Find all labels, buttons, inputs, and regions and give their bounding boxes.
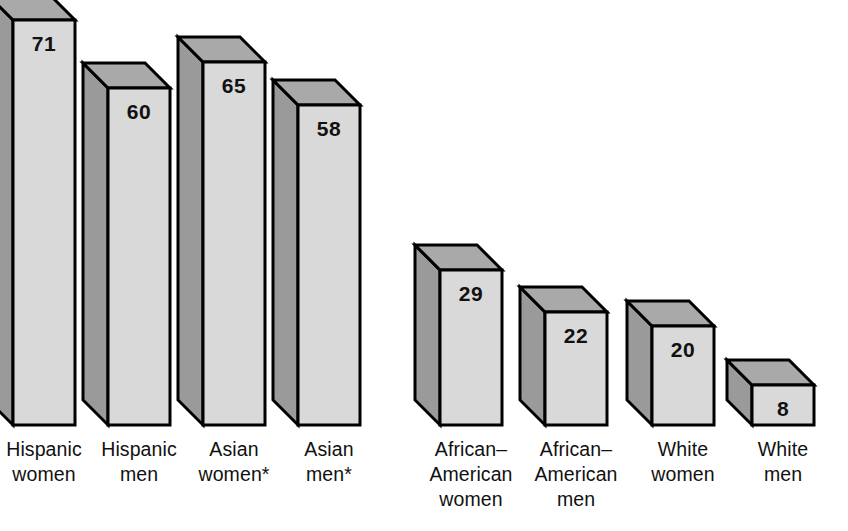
bar-front-face [652,326,714,425]
bar-left-face [415,245,440,425]
category-label-asian-men: Asian men* [277,437,381,487]
bar-chart: 71Hispanic women60Hispanic men65Asian wo… [0,0,848,531]
bar-front-face [440,270,502,425]
bar-front-face [752,385,814,425]
bar-white-men[interactable] [749,357,842,428]
bar-left-face [83,63,108,425]
bar-shape-african-american-men [517,284,635,428]
category-label-white-men: White men [731,437,835,487]
bar-left-face [178,37,203,425]
bar-left-face [273,80,298,425]
bar-front-face [298,105,360,425]
bar-front-face [203,62,265,425]
category-label-hispanic-men: Hispanic men [87,437,191,487]
category-label-african-american-men: African– American men [524,437,628,512]
category-label-african-american-women: African– American women [419,437,523,512]
bar-shape-african-american-women [412,242,530,428]
bar-front-face [13,20,75,425]
plot-area: 71Hispanic women60Hispanic men65Asian wo… [0,0,848,531]
bar-left-face [0,0,13,425]
bar-shape-asian-men [270,77,388,428]
category-label-asian-women: Asian women* [182,437,286,487]
bar-african-american-men[interactable] [542,284,635,428]
bar-front-face [108,88,170,425]
bar-asian-men[interactable] [295,77,388,428]
category-label-white-women: White women [631,437,735,487]
bar-top-face [0,0,75,20]
bar-shape-white-men [724,357,842,428]
bar-front-face [545,312,607,425]
category-label-hispanic-women: Hispanic women [0,437,96,487]
